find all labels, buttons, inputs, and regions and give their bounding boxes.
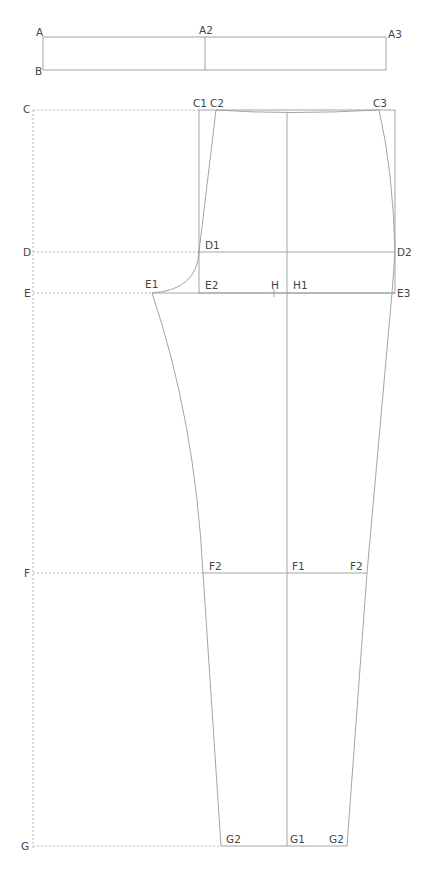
label-e: E: [24, 287, 31, 299]
framework: [152, 110, 395, 846]
guide-lines: C D E F G: [21, 103, 221, 852]
label-a3: A3: [388, 28, 402, 40]
pattern-diagram: A A2 A3 B C D E F G C1 C2: [0, 0, 427, 870]
label-c3: C3: [373, 97, 387, 109]
label-g: G: [21, 840, 29, 852]
label-g2-right: G2: [329, 833, 344, 845]
label-h: H: [271, 279, 279, 291]
label-d: D: [23, 246, 31, 258]
label-b: B: [35, 65, 42, 77]
label-h1: H1: [293, 279, 308, 291]
label-f2-left: F2: [209, 560, 222, 572]
hip-frame: [199, 110, 395, 293]
crotch-curve: [152, 252, 199, 293]
label-e3: E3: [397, 287, 410, 299]
waistband-outline: [43, 37, 386, 70]
label-f: F: [24, 567, 30, 579]
side-seam: [347, 110, 395, 846]
label-e2: E2: [205, 279, 218, 291]
label-a: A: [36, 26, 44, 38]
front-rise: [199, 110, 216, 252]
label-a2: A2: [199, 24, 213, 36]
pattern-outline: [152, 110, 395, 846]
label-c: C: [23, 103, 30, 115]
label-g1: G1: [290, 833, 305, 845]
waistband-piece: A A2 A3 B: [35, 24, 402, 77]
label-c2: C2: [210, 97, 224, 109]
pattern-labels: C1 C2 C3 D1 D2 E1 E2 E3 H H1 F2 F1 F2 G2…: [145, 97, 412, 845]
label-g2-left: G2: [226, 833, 241, 845]
label-f1: F1: [292, 560, 305, 572]
label-d2: D2: [397, 246, 412, 258]
label-d1: D1: [205, 239, 220, 251]
label-e1: E1: [145, 278, 158, 290]
label-f2-right: F2: [350, 560, 363, 572]
label-c1: C1: [193, 97, 207, 109]
